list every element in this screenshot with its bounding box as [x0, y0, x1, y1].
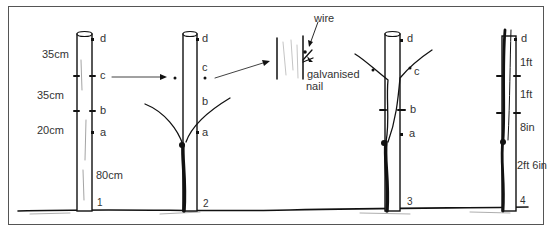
point-label-b-2: b — [202, 96, 208, 107]
point-label-b-3: b — [410, 104, 416, 115]
point-label-a-2: a — [202, 127, 208, 138]
point-label-c-3: c — [414, 66, 420, 77]
stage-3-vine — [355, 32, 432, 212]
point-label-c-1: c — [100, 70, 106, 81]
inset-label-galvanised: galvanised — [307, 69, 360, 80]
vine-illustration — [0, 0, 553, 238]
stage-1-post — [74, 32, 95, 212]
point-label-a-3: a — [409, 128, 415, 139]
point-label-d-4: d — [521, 33, 527, 44]
inset-label-wire: wire — [314, 13, 334, 24]
stage-number-4: 4 — [520, 196, 526, 206]
point-label-b-1: b — [100, 105, 106, 116]
stage-number-1: 1 — [97, 198, 103, 208]
measurement-2ft-6in: 2ft 6in — [517, 160, 547, 171]
measurement-c-b: 35cm — [37, 90, 64, 101]
arrow-2-to-inset — [215, 63, 263, 78]
stage-2-vine — [145, 32, 230, 212]
point-label-a-1: a — [100, 127, 106, 138]
inset-label-nail: nail — [306, 81, 323, 92]
stage-4-vine — [497, 30, 520, 211]
measurement-a-ground: 80cm — [96, 170, 123, 181]
measurement-d-c: 35cm — [42, 49, 69, 60]
measurement-8in: 8in — [520, 122, 535, 133]
stage-number-3: 3 — [407, 197, 413, 207]
point-label-c-2: c — [202, 62, 208, 73]
point-label-d-3: d — [407, 33, 413, 44]
measurement-1ft-top: 1ft — [520, 57, 532, 68]
stage-number-2: 2 — [203, 199, 209, 209]
measurement-b-a: 20cm — [37, 125, 64, 136]
measurement-1ft-mid: 1ft — [520, 89, 532, 100]
point-label-d-2: d — [202, 33, 208, 44]
ground-line — [18, 207, 528, 211]
point-label-d-1: d — [100, 33, 106, 44]
